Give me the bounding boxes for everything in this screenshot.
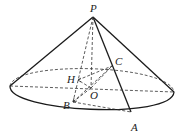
label-C: C: [115, 55, 123, 67]
cone-diagram: P C H O B A: [0, 0, 180, 136]
line-PO: [91, 17, 93, 88]
edge-left: [10, 17, 93, 86]
label-P: P: [89, 2, 97, 14]
label-B: B: [63, 99, 70, 111]
edge-right: [93, 17, 174, 92]
edge-PA: [93, 17, 131, 112]
label-A: A: [130, 121, 138, 133]
label-O: O: [90, 89, 98, 101]
line-BA: [73, 102, 131, 112]
arrow-H: [78, 78, 81, 82]
line-HC: [78, 66, 112, 80]
label-H: H: [66, 73, 76, 85]
